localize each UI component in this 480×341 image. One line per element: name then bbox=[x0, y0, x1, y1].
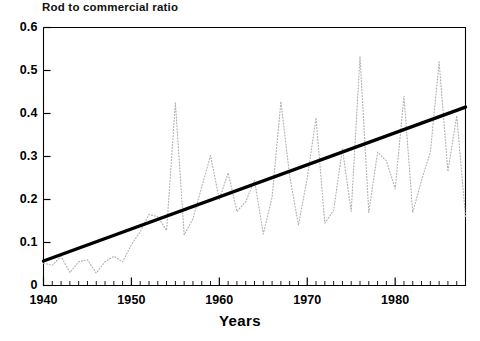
y-tick-label: 0.5 bbox=[2, 63, 38, 77]
data-series bbox=[44, 56, 466, 273]
axis-frame bbox=[44, 28, 466, 286]
x-tick-label: 1970 bbox=[277, 293, 337, 307]
x-tick-label: 1980 bbox=[365, 293, 425, 307]
plot-border bbox=[44, 28, 466, 286]
y-tick-label: 0 bbox=[2, 278, 38, 292]
x-tick-label: 1960 bbox=[189, 293, 249, 307]
y-tick-label: 0.2 bbox=[2, 192, 38, 206]
y-tick-label: 0.4 bbox=[2, 106, 38, 120]
y-tick-label: 0.1 bbox=[2, 235, 38, 249]
chart-figure: Rod to commercial ratio 00.10.20.30.40.5… bbox=[0, 0, 480, 341]
y-tick-label: 0.3 bbox=[2, 149, 38, 163]
y-axis-ticks bbox=[44, 28, 51, 286]
x-tick-label: 1940 bbox=[14, 293, 74, 307]
x-tick-label: 1950 bbox=[101, 293, 161, 307]
series-trend-line bbox=[44, 107, 466, 261]
plot-canvas bbox=[0, 0, 480, 341]
y-tick-label: 0.6 bbox=[2, 20, 38, 34]
x-axis-label: Years bbox=[0, 312, 480, 329]
x-axis-ticks bbox=[44, 278, 466, 286]
series-data-dotted bbox=[44, 56, 466, 273]
